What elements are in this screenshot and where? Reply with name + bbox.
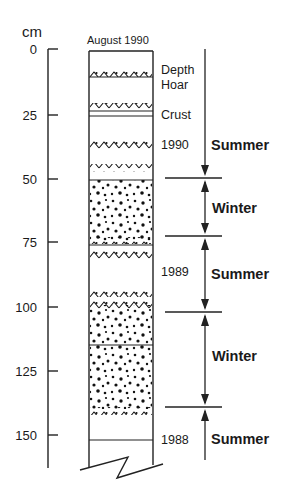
year-1988-label: 1988 (161, 434, 189, 447)
depth-hoar-label: Depth Hoar (161, 63, 201, 93)
tick-label-75: 75 (7, 236, 37, 249)
tick-label-50: 50 (7, 173, 37, 186)
depth-hoar-band (90, 164, 152, 172)
season-summer-1989: Summer (211, 267, 269, 282)
depth-hoar-band (90, 69, 152, 77)
depth-hoar-band (90, 237, 152, 244)
depth-hoar-band (90, 289, 152, 297)
column-title: August 1990 (87, 35, 149, 46)
season-summer-1988: Summer (211, 432, 269, 447)
season-summer-1990: Summer (211, 138, 269, 153)
break-symbol (80, 457, 163, 478)
depth-hoar-band (90, 407, 152, 415)
crust-label: Crust (161, 109, 191, 122)
snow-pit-diagram (0, 0, 289, 503)
depth-hoar-band (90, 103, 152, 111)
tick-label-150: 150 (7, 429, 37, 442)
axis-unit-label: cm (22, 24, 42, 39)
depth-axis (48, 49, 58, 468)
year-1989-label: 1989 (161, 266, 189, 279)
tick-label-0: 0 (7, 43, 37, 56)
season-winter-1989-90: Winter (212, 201, 257, 216)
tick-label-100: 100 (7, 301, 37, 314)
depth-hoar-band (90, 301, 152, 309)
snow-column (80, 51, 163, 478)
depth-hoar-band (90, 141, 152, 149)
coarse-grain-layer (90, 305, 152, 409)
tick-label-25: 25 (7, 109, 37, 122)
season-winter-1988-89: Winter (212, 349, 257, 364)
coarse-grain-layer (90, 180, 152, 244)
year-1990-label: 1990 (161, 139, 189, 152)
depth-hoar-band (90, 251, 152, 259)
tick-label-125: 125 (7, 365, 37, 378)
